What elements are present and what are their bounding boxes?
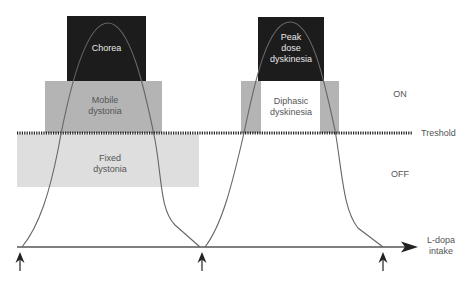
diphasic-dyskinesia-label: Diphasic dyskinesia (258, 96, 324, 118)
chorea-label: Chorea (67, 43, 146, 54)
peak-dose-label-line3: dyskinesia (258, 54, 324, 65)
off-state-label: OFF (386, 169, 414, 180)
diphasic-label-line1: Diphasic (258, 96, 324, 107)
on-state-label: ON (388, 89, 412, 100)
intake-arrow-icon (198, 252, 207, 271)
axis-label-line2: intake (424, 246, 458, 257)
l-dopa-fluctuation-diagram: Chorea Mobile dystonia Fixed dystonia Pe… (0, 0, 471, 286)
peak-dose-label-line1: Peak (258, 32, 324, 43)
mobile-dystonia-label: Mobile dystonia (60, 95, 150, 117)
peak-dose-label-line2: dose (258, 43, 324, 54)
diphasic-label-line2: dyskinesia (258, 107, 324, 118)
mobile-dystonia-label-line1: Mobile (60, 95, 150, 106)
dose-curve-1 (22, 23, 200, 247)
intake-arrow-icon (379, 252, 388, 271)
intake-arrow-icon (16, 252, 25, 271)
mobile-dystonia-label-line2: dystonia (60, 106, 150, 117)
peak-dose-dyskinesia-label: Peak dose dyskinesia (258, 32, 324, 65)
axis-label-line1: L-dopa (424, 235, 458, 246)
fixed-dystonia-label-line1: Fixed (65, 153, 155, 164)
l-dopa-intake-label: L-dopa intake (424, 235, 458, 257)
threshold-label: Treshold (421, 128, 456, 139)
fixed-dystonia-label: Fixed dystonia (65, 153, 155, 175)
fixed-dystonia-label-line2: dystonia (65, 164, 155, 175)
